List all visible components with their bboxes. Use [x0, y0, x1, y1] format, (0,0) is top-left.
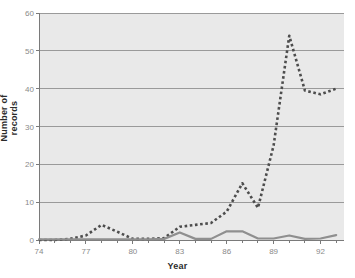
y-tick-label: 0 — [30, 236, 35, 245]
y-tick-label: 10 — [25, 198, 34, 207]
x-tick-label: 80 — [128, 247, 137, 256]
y-tick-label: 30 — [25, 123, 34, 132]
y-tick-label: 60 — [25, 9, 34, 18]
y-tick-label: 20 — [25, 160, 34, 169]
y-tick-label: 40 — [25, 85, 34, 94]
x-tick-label: 89 — [269, 247, 278, 256]
y-axis-title: Number of records — [0, 78, 19, 158]
x-tick-label: 83 — [175, 247, 184, 256]
x-tick-label: 92 — [316, 247, 325, 256]
line-chart: 010203040506074778083868992 — [0, 0, 355, 278]
x-tick-label: 77 — [81, 247, 90, 256]
x-tick-label: 86 — [222, 247, 231, 256]
x-axis-title: Year — [0, 261, 355, 271]
y-tick-label: 50 — [25, 47, 34, 56]
x-tick-label: 74 — [35, 247, 44, 256]
chart-container: 010203040506074778083868992 Number of re… — [0, 0, 355, 278]
